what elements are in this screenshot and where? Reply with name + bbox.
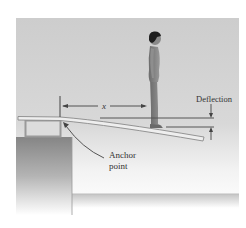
pedestal [16, 137, 72, 215]
anchor-label-line1: Anchor [109, 150, 136, 160]
distance-label: x [101, 101, 106, 111]
deflection-label: Deflection [196, 94, 233, 104]
support-stand [26, 121, 61, 137]
anchor-label-line2: point [109, 161, 128, 171]
water-surface [72, 194, 239, 208]
diving-board-diagram: x Deflection Anchor point [0, 0, 246, 228]
